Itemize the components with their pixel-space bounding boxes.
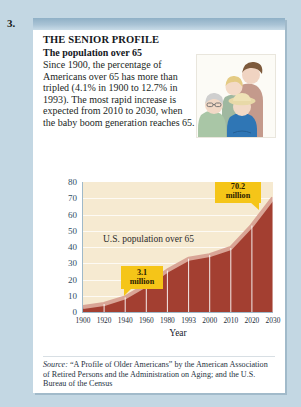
chart-series-label: U.S. population over 65 [103,234,194,244]
chart-plot-area: U.S. population over 65 3.1 million 70.2… [83,182,273,312]
x-tick-1920: 1920 [97,316,112,325]
y-tick-20: 20 [68,275,77,285]
y-tick-30: 30 [68,258,77,268]
x-tick-1940: 1940 [118,316,133,325]
y-tick-50: 50 [68,226,77,236]
y-tick-70: 70 [68,193,77,203]
chart-x-axis: 1900192019401960198019932000201020202030 [83,315,273,328]
population-chart: 80 70 60 50 40 30 20 10 0 [43,178,279,353]
source-citation: Source: “A Profile of Older Americans” b… [43,360,275,389]
start-callout-value: 3.1 [137,268,147,277]
page-root: 3. THE SENIOR PROFILE The population ove… [0,0,301,407]
start-value-callout: 3.1 million [121,266,163,289]
y-tick-80: 80 [68,177,77,187]
x-tick-1980: 1980 [160,316,175,325]
panel-body: THE SENIOR PROFILE The population over 6… [37,30,281,389]
x-tick-2000: 2000 [202,316,217,325]
x-tick-2010: 2010 [223,316,238,325]
panel-header-bar [33,18,285,30]
y-axis-line [82,182,83,313]
start-callout-pointer [124,288,132,296]
x-tick-1993: 1993 [181,316,196,325]
chart-y-axis: 80 70 60 50 40 30 20 10 0 [43,178,81,316]
family-illustration [196,54,276,138]
source-text: “A Profile of Older Americans” by the Am… [43,360,268,388]
start-callout-unit: million [130,277,155,286]
page-title: THE SENIOR PROFILE [43,34,277,45]
panel-body-copy: Since 1900, the percentage of Americans … [43,59,195,129]
x-axis-line [83,312,273,313]
end-value-callout: 70.2 million [215,182,261,203]
source-divider [43,356,275,357]
x-tick-2030: 2030 [266,316,281,325]
x-tick-2020: 2020 [245,316,260,325]
y-tick-60: 60 [68,210,77,220]
x-tick-1900: 1900 [76,316,91,325]
senior-profile-panel: THE SENIOR PROFILE The population over 6… [33,18,285,393]
source-label: Source: [43,360,68,369]
y-tick-10: 10 [68,291,77,301]
y-tick-40: 40 [68,242,77,252]
end-callout-pointer [250,202,259,210]
x-axis-title: Year [83,328,273,338]
exercise-number: 3. [7,17,15,29]
family-illustration-graphic [197,55,275,137]
x-tick-1960: 1960 [139,316,154,325]
end-callout-value: 70.2 [231,182,245,191]
end-callout-unit: million [226,191,251,200]
